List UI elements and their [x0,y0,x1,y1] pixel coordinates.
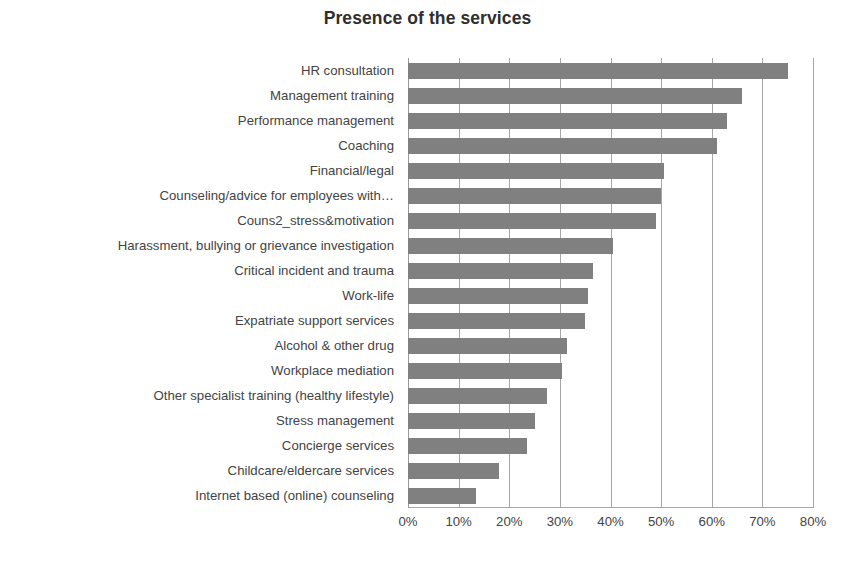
category-label: Workplace mediation [271,364,394,377]
bar-row [408,108,813,133]
bar-row [408,383,813,408]
x-axis-tick-label: 40% [597,514,623,529]
bar[interactable] [408,338,567,354]
category-label-row: Financial/legal [0,158,400,183]
category-label: Couns2_stress&motivation [237,214,394,227]
x-axis-tick-label: 80% [800,514,826,529]
bar-row [408,158,813,183]
category-label: Stress management [276,414,394,427]
bar[interactable] [408,213,656,229]
x-axis-tick-labels: 0%10%20%30%40%50%60%70%80% [408,514,813,540]
category-label-row: Harassment, bullying or grievance invest… [0,233,400,258]
bar[interactable] [408,313,585,329]
category-label-row: Expatriate support services [0,308,400,333]
category-label: Alcohol & other drug [275,339,395,352]
category-label-row: Couns2_stress&motivation [0,208,400,233]
bar[interactable] [408,163,664,179]
bar-row [408,258,813,283]
bar-row [408,433,813,458]
category-label: Other specialist training (healthy lifes… [154,389,394,402]
chart-title: Presence of the services [0,8,855,29]
bar-row [408,208,813,233]
category-label: Management training [270,89,394,102]
category-label-row: Childcare/eldercare services [0,458,400,483]
bar-row [408,58,813,83]
category-label: HR consultation [301,64,394,77]
bar[interactable] [408,188,661,204]
x-axis-tick-label: 70% [749,514,775,529]
chart-container: Presence of the services HR consultation… [0,0,855,570]
category-label: Counseling/advice for employees with… [159,189,394,202]
category-label-row: Internet based (online) counseling [0,483,400,508]
x-axis-tick-label: 10% [445,514,471,529]
category-label: Expatriate support services [235,314,394,327]
x-axis-tick-label: 60% [699,514,725,529]
bar-row [408,283,813,308]
category-label: Internet based (online) counseling [195,489,394,502]
category-label-row: Management training [0,83,400,108]
bar[interactable] [408,288,588,304]
category-label: Coaching [338,139,394,152]
category-label-row: Other specialist training (healthy lifes… [0,383,400,408]
category-label-row: Counseling/advice for employees with… [0,183,400,208]
plot-area [408,58,813,508]
x-axis-baseline [408,507,813,508]
category-label: Concierge services [282,439,394,452]
bar[interactable] [408,388,547,404]
category-label-row: Coaching [0,133,400,158]
category-label-row: HR consultation [0,58,400,83]
category-label-row: Performance management [0,108,400,133]
category-label-row: Workplace mediation [0,358,400,383]
bar[interactable] [408,88,742,104]
bar-row [408,183,813,208]
bar-row [408,458,813,483]
bar[interactable] [408,263,593,279]
x-axis-tick-label: 20% [496,514,522,529]
category-label-row: Work-life [0,283,400,308]
bar-row [408,358,813,383]
category-label: Financial/legal [310,164,394,177]
x-axis-tick-label: 0% [398,514,417,529]
x-axis-tick-label: 30% [547,514,573,529]
bar-row [408,483,813,508]
bar[interactable] [408,463,499,479]
bar[interactable] [408,413,535,429]
gridline-80pct [813,58,814,508]
bar[interactable] [408,63,788,79]
category-label: Childcare/eldercare services [228,464,394,477]
category-label: Harassment, bullying or grievance invest… [118,239,394,252]
x-axis-tick-label: 50% [648,514,674,529]
category-label: Work-life [342,289,394,302]
bar[interactable] [408,438,527,454]
category-label-row: Concierge services [0,433,400,458]
category-label-row: Alcohol & other drug [0,333,400,358]
bar[interactable] [408,138,717,154]
bar-row [408,233,813,258]
bar-row [408,333,813,358]
bar[interactable] [408,238,613,254]
bar[interactable] [408,363,562,379]
category-label-row: Stress management [0,408,400,433]
bar-row [408,83,813,108]
bar[interactable] [408,488,476,504]
bar-row [408,308,813,333]
bar-row [408,133,813,158]
bar[interactable] [408,113,727,129]
bar-row [408,408,813,433]
category-label: Performance management [238,114,394,127]
category-label: Critical incident and trauma [234,264,394,277]
category-label-row: Critical incident and trauma [0,258,400,283]
bar-series [408,58,813,508]
category-axis-labels: HR consultationManagement trainingPerfor… [0,58,400,508]
